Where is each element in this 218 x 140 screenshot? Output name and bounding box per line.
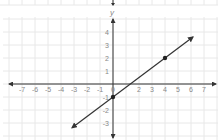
axes: [9, 19, 216, 138]
x-tick-label: -4: [58, 86, 64, 93]
y-tick-label: 3: [105, 42, 109, 49]
x-tick-label: 6: [189, 86, 193, 93]
x-tick-label: 7: [202, 86, 206, 93]
y-axis-label: y: [109, 8, 115, 17]
x-tick-label: 4: [163, 86, 167, 93]
y-tick-label: -1: [103, 94, 109, 101]
plotted-line: [72, 37, 193, 128]
x-tick-label: 3: [150, 86, 154, 93]
data-point: [163, 56, 167, 60]
line-y-equals-0.75x-minus-1: [72, 37, 193, 128]
data-point: [111, 95, 115, 99]
top-grid-strip: [0, 0, 218, 6]
grid-lines: [3, 17, 218, 140]
y-tick-label: 1: [105, 68, 109, 75]
x-tick-label: -5: [45, 86, 51, 93]
y-tick-label: -2: [103, 107, 109, 114]
x-tick-label: 2: [137, 86, 141, 93]
x-tick-label: -6: [32, 86, 38, 93]
y-tick-label: 2: [105, 55, 109, 62]
x-tick-label: -7: [19, 86, 25, 93]
x-tick-label: 5: [176, 86, 180, 93]
coordinate-plane: -7-6-5-4-3-2-102345674321-1-2-3 y: [0, 0, 218, 140]
y-tick-label: -3: [103, 120, 109, 127]
x-tick-label: -2: [84, 86, 90, 93]
y-tick-label: 4: [105, 29, 109, 36]
x-tick-label: -3: [71, 86, 77, 93]
x-tick-label: -1: [97, 86, 103, 93]
x-tick-label: 0: [111, 86, 115, 93]
